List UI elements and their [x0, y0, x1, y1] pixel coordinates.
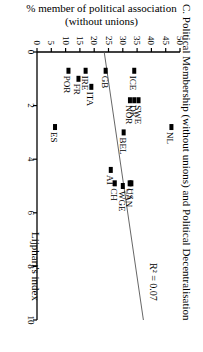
- membership-tick-label: 25: [104, 36, 114, 46]
- data-point-marker: [169, 124, 173, 130]
- data-point-marker: [76, 76, 80, 82]
- membership-tick-label: 10: [61, 36, 71, 46]
- chart-title: C. Political Membership (without unions)…: [181, 4, 193, 321]
- membership-tick-label: 5: [46, 41, 56, 46]
- index-tick-label: 10: [26, 316, 36, 326]
- membership-tick-label: 15: [75, 36, 85, 46]
- index-tick-label: 2: [26, 103, 36, 108]
- data-point-marker: [109, 167, 113, 173]
- data-point-marker: [89, 84, 93, 90]
- data-point-marker: [132, 97, 136, 103]
- index-tick-label: 6: [26, 211, 36, 216]
- membership-tick-label: 40: [146, 36, 156, 46]
- membership-tick-label: 35: [132, 36, 142, 46]
- data-point-marker: [132, 68, 136, 74]
- data-point-marker: [128, 180, 132, 186]
- r-squared-annotation: R² = 0.07: [148, 263, 159, 301]
- data-point-marker: [121, 183, 125, 189]
- membership-tick-label: 30: [118, 36, 128, 46]
- data-point-label: WGE: [117, 191, 127, 212]
- x-axis-title: Lijphart's index: [30, 232, 42, 301]
- membership-tick-label: 45: [161, 36, 171, 46]
- data-point-label: SWE: [133, 105, 143, 125]
- data-point-marker: [84, 68, 88, 74]
- data-point-marker: [66, 68, 70, 74]
- data-point-label: BEL: [118, 137, 128, 154]
- data-point-label: ES: [49, 132, 59, 143]
- membership-tick-label: 0: [32, 41, 42, 46]
- data-point-marker: [53, 124, 57, 130]
- data-point-label: FR: [72, 84, 82, 95]
- data-point-marker: [113, 180, 117, 186]
- index-tick-label: 4: [26, 157, 36, 162]
- data-point-label: ICE: [128, 76, 138, 91]
- data-point-label: NL: [165, 132, 175, 144]
- data-point-label: POR: [62, 76, 72, 94]
- membership-tick-label: 20: [89, 36, 99, 46]
- index-tick-label: 0: [26, 50, 36, 55]
- data-point-marker: [137, 97, 141, 103]
- data-point-marker: [122, 129, 126, 135]
- data-point-marker: [104, 68, 108, 74]
- data-point-marker: [128, 97, 132, 103]
- data-points: ICEGBIREPORFRITANORDKSWENLESBELATCHUSCAN…: [49, 68, 175, 212]
- data-point-label: GB: [100, 76, 110, 89]
- data-point-label: ITA: [85, 92, 95, 107]
